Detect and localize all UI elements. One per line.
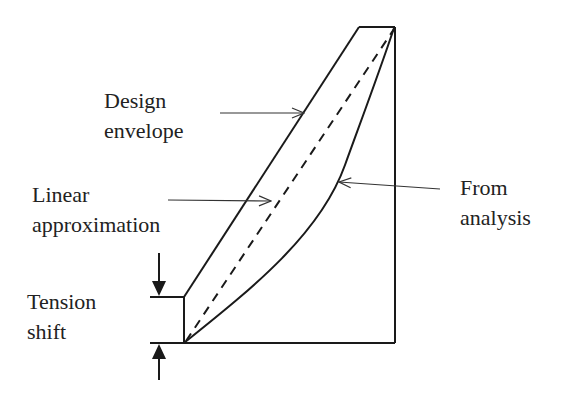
design-envelope-line-1: Design xyxy=(104,86,183,116)
from-analysis-line-1: From xyxy=(460,173,531,203)
from-analysis-pointer-arrow xyxy=(339,182,440,189)
linear-approximation-line xyxy=(186,29,394,341)
design-envelope-outline xyxy=(150,27,395,343)
from-analysis-label: From analysis xyxy=(460,173,531,233)
tension-shift-label: Tension shift xyxy=(27,287,96,347)
tension-shift-line-2: shift xyxy=(27,317,96,347)
from-analysis-line-2: analysis xyxy=(460,203,531,233)
tension-shift-bottom-arrow-icon xyxy=(152,344,166,380)
linear-approximation-line-1: Linear xyxy=(32,180,160,210)
linear-approximation-line-2: approximation xyxy=(32,210,160,240)
linear-approximation-pointer-arrow xyxy=(168,200,271,201)
tension-shift-line-1: Tension xyxy=(27,287,96,317)
design-envelope-line-2: envelope xyxy=(104,116,183,146)
linear-approximation-label: Linear approximation xyxy=(32,180,160,240)
design-envelope-label: Design envelope xyxy=(104,86,183,146)
tension-shift-top-arrow-icon xyxy=(152,253,166,296)
tension-shift-diagram: Design envelope Linear approximation Fro… xyxy=(0,0,571,401)
